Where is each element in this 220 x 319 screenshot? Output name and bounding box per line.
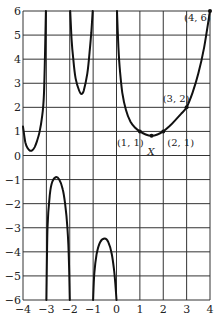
curve-branch-2	[46, 177, 69, 300]
point-label: (4, 6)	[184, 12, 211, 23]
curve-branch-4	[93, 239, 116, 300]
point-label: X	[147, 146, 156, 157]
x-tick-label: 4	[207, 303, 214, 316]
y-tick-label: −4	[5, 246, 21, 259]
x-tick-label: −3	[38, 303, 54, 316]
x-tick-label: −2	[62, 303, 78, 316]
grid-lines	[23, 11, 210, 300]
y-axis-tick-labels: 6543210−1−2−3−4−5−6	[5, 5, 21, 307]
x-tick-label: 3	[183, 303, 190, 316]
y-tick-label: 1	[14, 125, 21, 138]
y-tick-label: 6	[14, 5, 21, 18]
x-tick-label: −4	[15, 303, 31, 316]
x-tick-label: 1	[136, 303, 143, 316]
point-marker	[150, 134, 154, 138]
y-tick-label: −1	[5, 174, 21, 187]
point-label: (3, 2)	[163, 93, 190, 104]
point-label: (1, 1)	[117, 137, 144, 148]
curve-branch-1	[23, 11, 46, 151]
y-tick-label: −3	[5, 222, 21, 235]
y-tick-label: 0	[14, 150, 21, 163]
point-marker	[138, 129, 142, 133]
y-tick-label: −2	[5, 198, 21, 211]
y-tick-label: 3	[14, 77, 21, 90]
y-tick-label: 2	[14, 101, 21, 114]
point-marker	[185, 105, 189, 109]
x-tick-label: −1	[85, 303, 101, 316]
y-tick-label: 5	[14, 29, 21, 42]
y-tick-label: −5	[5, 270, 21, 283]
x-tick-label: 0	[113, 303, 120, 316]
point-marker	[161, 129, 165, 133]
x-tick-label: 2	[160, 303, 167, 316]
x-axis-tick-labels: −4−3−2−101234	[15, 303, 214, 316]
y-tick-label: 4	[14, 53, 21, 66]
curve-branch-3	[70, 11, 93, 94]
function-plot: 6543210−1−2−3−4−5−6 −4−3−2−101234 (1, 1)…	[0, 0, 220, 319]
point-label: (2, 1)	[167, 137, 194, 148]
